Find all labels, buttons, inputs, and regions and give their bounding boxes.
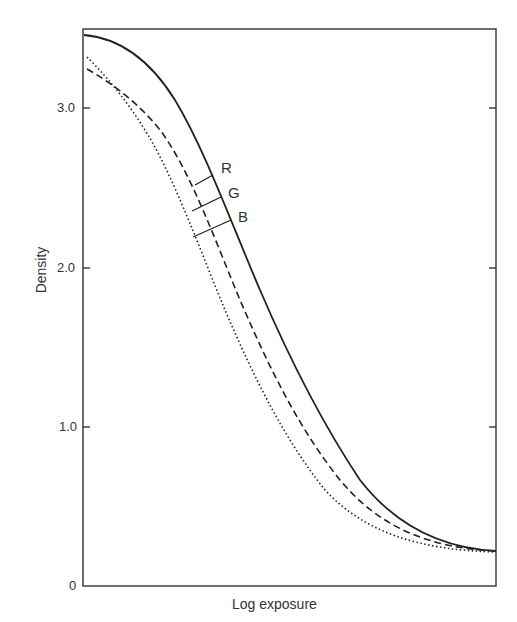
y-tick-0: 0 bbox=[69, 578, 76, 593]
y-tick-1: 1.0 bbox=[59, 419, 77, 434]
y-tick-3: 3.0 bbox=[57, 100, 75, 115]
density-chart bbox=[0, 0, 517, 622]
y-axis-label: Density bbox=[33, 247, 49, 294]
series-label-g: G bbox=[228, 184, 240, 201]
curve-r-solid bbox=[84, 35, 496, 551]
series-label-b: B bbox=[238, 208, 248, 225]
y-ticks-right bbox=[489, 108, 496, 427]
y-tick-2: 2.0 bbox=[57, 260, 75, 275]
curve-g-dashed bbox=[87, 69, 496, 551]
curve-b-dotted bbox=[87, 57, 496, 552]
series-label-r: R bbox=[221, 159, 232, 176]
y-ticks-left bbox=[83, 108, 90, 427]
x-axis-label: Log exposure bbox=[232, 596, 317, 612]
